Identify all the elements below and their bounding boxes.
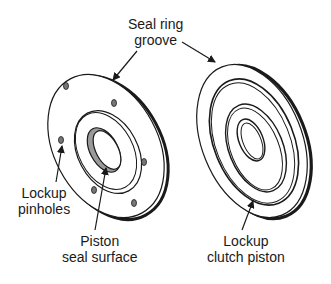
arrow-seal-groove-left bbox=[113, 51, 137, 80]
label-piston-seal-surface: Piston seal surface bbox=[62, 233, 137, 265]
arrow-seal-groove-right bbox=[182, 42, 215, 62]
label-seal-ring-groove: Seal ring groove bbox=[128, 16, 183, 48]
right-part bbox=[176, 48, 331, 235]
label-lockup-clutch-piston: Lockup clutch piston bbox=[207, 233, 285, 265]
label-lockup-pinholes: Lockup pinholes bbox=[18, 185, 70, 217]
